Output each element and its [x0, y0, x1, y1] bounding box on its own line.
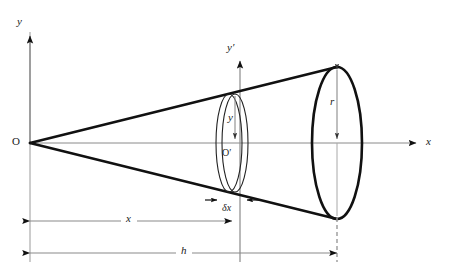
disc-radius-label: y [228, 112, 233, 123]
y-axis-label: y [17, 16, 22, 27]
x-axis-label: x [426, 136, 431, 147]
delta-x-label: δx [222, 203, 231, 213]
cone-diagram-figure: y y′ x O O′ y r δx x h [0, 0, 454, 277]
origin-label: O [12, 136, 20, 147]
origin-prime-label: O′ [222, 148, 231, 158]
base-radius-label: r [330, 96, 334, 107]
dimension-h-label: h [181, 245, 187, 256]
cone-lower-slant-line [30, 143, 337, 219]
cone-upper-slant-line [30, 67, 337, 143]
dimension-x-label: x [126, 213, 131, 224]
y-prime-axis-label: y′ [227, 42, 234, 53]
